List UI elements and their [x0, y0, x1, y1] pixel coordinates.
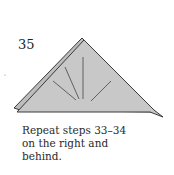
caption-line-3: behind.	[22, 150, 62, 162]
caption-line-2: on the right and	[22, 137, 108, 149]
stray-dot	[4, 74, 5, 75]
front-layer	[17, 40, 163, 117]
step-caption: Repeat steps 33–34 on the right and behi…	[22, 124, 172, 163]
caption-line-1: Repeat steps 33–34	[22, 124, 126, 136]
